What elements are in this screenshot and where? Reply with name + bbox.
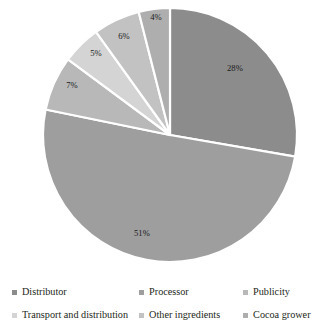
legend-swatch-icon: [243, 313, 248, 318]
legend-row: Transport and distribution Other ingredi…: [12, 309, 324, 332]
pie-slices-group: [43, 8, 297, 262]
legend-label: Transport and distribution: [22, 309, 128, 321]
legend-item-processor[interactable]: Processor: [139, 286, 243, 298]
legend-swatch-icon: [12, 313, 17, 318]
pie-slice-value-label: 28%: [227, 63, 243, 73]
legend-label: Other ingredients: [149, 309, 220, 321]
legend-label: Publicity: [253, 286, 290, 298]
pie-slice-value-label: 4%: [150, 12, 162, 22]
pie-svg: 28%51%7%5%6%4%: [0, 0, 332, 280]
legend-item-other-ingredients[interactable]: Other ingredients: [139, 309, 243, 321]
legend-label: Cocoa grower: [253, 309, 310, 321]
legend-swatch-icon: [139, 313, 144, 318]
legend-item-transport-and-distribution[interactable]: Transport and distribution: [12, 309, 139, 321]
legend-swatch-icon: [139, 290, 144, 295]
legend-row: Distributor Processor Publicity: [12, 286, 324, 309]
legend-swatch-icon: [12, 290, 17, 295]
pie-slice[interactable]: [170, 8, 297, 157]
pie-slice-value-label: 51%: [134, 228, 150, 238]
pie-plot-area: 28%51%7%5%6%4%: [0, 0, 332, 280]
pie-chart-figure: 28%51%7%5%6%4% Distributor Processor Pub…: [0, 0, 332, 334]
pie-slice-value-label: 5%: [90, 48, 102, 58]
legend-item-publicity[interactable]: Publicity: [243, 286, 324, 298]
legend-label: Processor: [149, 286, 189, 298]
legend-item-distributor[interactable]: Distributor: [12, 286, 139, 298]
chart-legend: Distributor Processor Publicity Transpor…: [0, 286, 332, 334]
pie-slice-value-label: 6%: [118, 31, 130, 41]
legend-swatch-icon: [243, 290, 248, 295]
legend-label: Distributor: [22, 286, 67, 298]
legend-item-cocoa-grower[interactable]: Cocoa grower: [243, 309, 324, 321]
pie-slice-value-label: 7%: [66, 80, 78, 90]
